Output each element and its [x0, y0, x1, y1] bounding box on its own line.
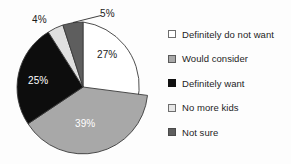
- pie-data-label-not-sure: 5%: [100, 8, 115, 19]
- legend-item-no-more-kids[interactable]: No more kids: [168, 96, 288, 121]
- legend-swatch-icon: [168, 79, 176, 87]
- legend-swatch-icon: [168, 128, 176, 136]
- pie-data-label-definitely-do-not-want: 27%: [97, 49, 117, 60]
- legend-item-label: Definitely want: [182, 78, 245, 89]
- legend-swatch-icon: [168, 55, 176, 63]
- chart-legend: Definitely do not want Would consider De…: [168, 22, 288, 145]
- legend-item-label: Definitely do not want: [182, 29, 274, 40]
- pie-data-label-definitely-want: 25%: [28, 75, 48, 86]
- legend-swatch-icon: [168, 30, 176, 38]
- pie-chart-figure: 27% 39% 25% 4% 5% Definitely do not want…: [0, 0, 291, 164]
- pie-plot-area: 27% 39% 25% 4% 5%: [0, 0, 165, 164]
- legend-item-would-consider[interactable]: Would consider: [168, 47, 288, 72]
- pie-data-label-no-more-kids: 4%: [32, 14, 47, 25]
- legend-item-definitely-want[interactable]: Definitely want: [168, 71, 288, 96]
- leader-line-5-percent: [73, 16, 101, 23]
- legend-item-label: No more kids: [182, 102, 239, 113]
- legend-item-label: Not sure: [182, 127, 218, 138]
- pie-svg: [0, 0, 165, 164]
- legend-swatch-icon: [168, 104, 176, 112]
- legend-item-not-sure[interactable]: Not sure: [168, 120, 288, 145]
- legend-item-definitely-do-not-want[interactable]: Definitely do not want: [168, 22, 288, 47]
- legend-item-label: Would consider: [182, 53, 248, 64]
- pie-data-label-would-consider: 39%: [75, 118, 95, 129]
